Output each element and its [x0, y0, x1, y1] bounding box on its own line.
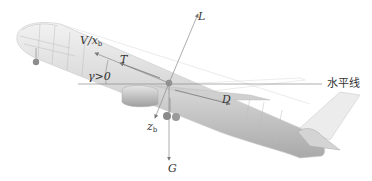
lift-label: L: [198, 11, 205, 22]
velocity-label: V/xb: [80, 35, 102, 48]
velocity-label-sub: b: [98, 40, 102, 48]
lift-vector: [169, 14, 198, 83]
body-z-axis-label: zb: [147, 121, 157, 134]
aircraft: [17, 22, 360, 158]
main-gear-wheel-1: [163, 112, 171, 120]
drag-label: D: [222, 94, 231, 105]
engine: [122, 86, 158, 107]
diagram-canvas: [0, 0, 372, 181]
thrust-label: T: [120, 54, 127, 65]
velocity-label-main: V/x: [80, 34, 98, 47]
main-gear-wheel-2: [172, 113, 180, 121]
body-z-axis-label-sub: b: [153, 126, 157, 134]
nose-gear-wheel: [33, 59, 39, 65]
gravity-label: G: [168, 163, 177, 174]
aircraft-force-diagram: L V/xb T γ>0 D 水平线 zb G: [0, 0, 372, 181]
horizontal-line-label: 水平线: [327, 78, 360, 89]
fuselage: [17, 22, 325, 158]
flight-path-angle-label: γ>0: [88, 71, 111, 82]
